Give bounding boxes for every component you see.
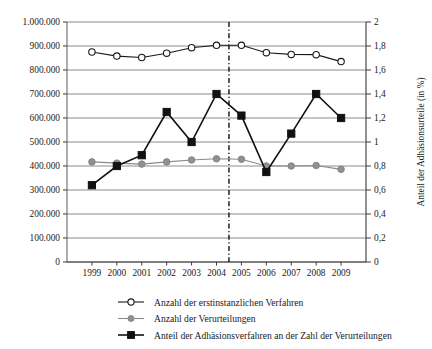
data-point-marker — [138, 152, 145, 159]
right-axis-ticks: 00,20,40,60,811,21,41,61,82 — [366, 17, 386, 267]
x-axis-tick-label: 2008 — [307, 268, 326, 278]
right-axis-tick-label: 2 — [374, 17, 379, 27]
data-point-marker — [263, 168, 270, 175]
left-axis-ticks: 0100.000200.000300.000400.000500.000600.… — [23, 17, 68, 267]
series-3 — [88, 90, 344, 188]
data-point-marker — [213, 90, 220, 97]
left-axis-tick-label: 900.000 — [30, 41, 61, 51]
data-point-marker — [163, 159, 170, 166]
gridlines-group — [67, 22, 366, 262]
legend-item-label: Anzahl der erstinstanzlichen Verfahren — [154, 297, 303, 308]
x-axis-tick-label: 1999 — [83, 268, 102, 278]
x-axis-tick-label: 2007 — [282, 268, 301, 278]
data-point-marker — [88, 182, 95, 189]
data-point-marker — [238, 42, 244, 48]
data-point-marker — [163, 108, 170, 115]
x-axis-tick-label: 2005 — [232, 268, 251, 278]
data-point-marker — [337, 114, 344, 121]
x-axis-tick-label: 2006 — [257, 268, 276, 278]
data-point-marker — [313, 51, 319, 57]
data-point-marker — [188, 157, 195, 164]
data-point-marker — [238, 112, 245, 119]
chart-container: 0100.000200.000300.000400.000500.000600.… — [0, 0, 432, 349]
data-point-marker — [338, 58, 344, 64]
right-axis-tick-label: 0,4 — [374, 209, 386, 219]
series-layer — [88, 42, 344, 189]
data-point-marker — [113, 162, 120, 169]
left-axis-tick-label: 200.000 — [30, 209, 61, 219]
legend-marker-icon — [128, 299, 134, 305]
left-axis-tick-label: 1.000.000 — [23, 17, 61, 27]
right-axis-tick-label: 1,4 — [374, 89, 386, 99]
data-point-marker — [313, 162, 320, 169]
data-point-marker — [263, 50, 269, 56]
legend-marker-icon — [128, 332, 135, 339]
right-axis-tick-label: 0,8 — [374, 161, 386, 171]
right-axis-tick-label: 1,2 — [374, 113, 386, 123]
x-axis-tick-label: 2003 — [182, 268, 201, 278]
legend-item-label: Anteil der Adhäsionsverfahren an der Zah… — [154, 330, 392, 341]
legend-marker-icon — [128, 316, 134, 322]
data-point-marker — [89, 49, 95, 55]
left-axis-tick-label: 800.000 — [30, 65, 61, 75]
right-axis-tick-label: 1,6 — [374, 65, 386, 75]
legend-item-3: Anteil der Adhäsionsverfahren an der Zah… — [118, 330, 392, 341]
data-point-marker — [188, 138, 195, 145]
left-axis-tick-label: 500.000 — [30, 137, 61, 147]
right-axis-title: Anteil der Adhäsionsurteile (in %) — [416, 77, 427, 206]
chart-legend: Anzahl der erstinstanzlichen VerfahrenAn… — [118, 297, 392, 341]
left-axis-tick-label: 300.000 — [30, 185, 61, 195]
series-1 — [89, 42, 345, 65]
x-axis-tick-label: 2000 — [107, 268, 126, 278]
dual-axis-line-chart: 0100.000200.000300.000400.000500.000600.… — [0, 0, 432, 349]
legend-item-label: Anzahl der Verurteilungen — [154, 313, 256, 324]
data-point-marker — [213, 156, 220, 163]
data-point-marker — [288, 163, 295, 170]
left-axis-tick-label: 400.000 — [30, 161, 61, 171]
x-axis-tick-label: 2001 — [132, 268, 151, 278]
right-axis-tick-label: 1 — [374, 137, 379, 147]
data-point-marker — [114, 53, 120, 59]
left-axis-tick-label: 100.000 — [30, 233, 61, 243]
right-axis-tick-label: 0 — [374, 257, 379, 267]
legend-item-2: Anzahl der Verurteilungen — [118, 313, 256, 324]
data-point-marker — [139, 54, 145, 60]
series-2 — [89, 156, 345, 173]
x-axis-tick-label: 2002 — [157, 268, 176, 278]
x-axis-tick-label: 2009 — [332, 268, 351, 278]
data-point-marker — [288, 130, 295, 137]
x-axis-ticks: 1999200020012002200320042005200620072008… — [83, 262, 351, 278]
data-point-marker — [313, 90, 320, 97]
right-axis-tick-label: 0,6 — [374, 185, 386, 195]
data-point-marker — [163, 50, 169, 56]
series-line — [92, 94, 341, 185]
data-point-marker — [338, 166, 345, 173]
data-point-marker — [138, 161, 145, 168]
x-axis-tick-label: 2004 — [207, 268, 226, 278]
data-point-marker — [89, 159, 96, 166]
data-point-marker — [238, 156, 245, 163]
right-axis-tick-label: 0,2 — [374, 233, 386, 243]
data-point-marker — [188, 44, 194, 50]
right-axis-tick-label: 1,8 — [374, 41, 386, 51]
legend-item-1: Anzahl der erstinstanzlichen Verfahren — [118, 297, 303, 308]
left-axis-tick-label: 700.000 — [30, 89, 61, 99]
data-point-marker — [288, 51, 294, 57]
left-axis-tick-label: 600.000 — [30, 113, 61, 123]
data-point-marker — [213, 42, 219, 48]
left-axis-tick-label: 0 — [55, 257, 60, 267]
